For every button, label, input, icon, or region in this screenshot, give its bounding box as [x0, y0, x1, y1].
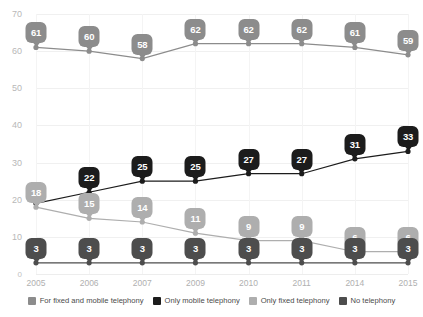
- data-label-value: 62: [297, 24, 307, 35]
- data-label-value: 18: [31, 187, 41, 198]
- data-label-value: 9: [299, 221, 304, 232]
- data-label-value: 61: [350, 27, 360, 38]
- data-label-badge: 3: [344, 238, 365, 259]
- data-label-badge: 27: [238, 149, 259, 170]
- data-label-value: 61: [31, 27, 41, 38]
- data-label-badge: 58: [132, 34, 153, 55]
- data-label-value: 33: [403, 131, 413, 142]
- data-label-badge: 25: [185, 156, 206, 177]
- data-label-badge: 3: [79, 238, 100, 259]
- line-chart: 010203040506070 200520062007200920102011…: [0, 0, 423, 317]
- data-label-badge: 27: [291, 149, 312, 170]
- data-label-value: 14: [137, 202, 147, 213]
- data-label-value: 3: [87, 243, 92, 254]
- data-label-value: 11: [191, 213, 201, 224]
- legend-swatch-icon: [339, 297, 347, 305]
- data-label-badge: 22: [79, 167, 100, 188]
- data-label-value: 25: [190, 161, 200, 172]
- data-label-badge: 31: [344, 134, 365, 155]
- data-label-badge: 3: [398, 238, 419, 259]
- data-label-value: 62: [190, 24, 200, 35]
- data-label-badge: 14: [132, 197, 153, 218]
- data-label-value: 22: [84, 172, 94, 183]
- data-label-badge: 11: [185, 208, 206, 229]
- data-label-badge: 3: [238, 238, 259, 259]
- data-label-badge: 33: [398, 126, 419, 147]
- legend-item[interactable]: Only fixed telephony: [249, 296, 330, 305]
- data-label-value: 3: [405, 243, 410, 254]
- legend-swatch-icon: [28, 297, 36, 305]
- legend-label: Only mobile telephony: [165, 296, 240, 305]
- data-label-badge: 61: [26, 22, 47, 43]
- data-label-value: 3: [193, 243, 198, 254]
- data-label-badge: 18: [26, 182, 47, 203]
- data-label-value: 25: [137, 161, 147, 172]
- data-label-badge: 25: [132, 156, 153, 177]
- data-label-value: 60: [84, 31, 94, 42]
- legend-item[interactable]: Only mobile telephony: [153, 296, 240, 305]
- data-label-value: 58: [137, 39, 147, 50]
- data-label-value: 15: [84, 198, 94, 209]
- legend-swatch-icon: [153, 297, 161, 305]
- data-label-badge: 60: [79, 26, 100, 47]
- data-label-badge: 3: [132, 238, 153, 259]
- data-label-badge: 62: [185, 19, 206, 40]
- legend-item[interactable]: For fixed and mobile telephony: [28, 296, 144, 305]
- data-label-value: 59: [403, 35, 413, 46]
- data-label-value: 31: [350, 139, 360, 150]
- data-label-badge: 3: [185, 238, 206, 259]
- data-label-value: 3: [246, 243, 251, 254]
- data-label-value: 27: [243, 154, 253, 165]
- data-label-value: 3: [140, 243, 145, 254]
- legend-swatch-icon: [249, 297, 257, 305]
- legend-label: Only fixed telephony: [261, 296, 330, 305]
- data-label-badge: 3: [26, 238, 47, 259]
- chart-legend: For fixed and mobile telephonyOnly mobil…: [0, 296, 423, 305]
- data-label-badge: 3: [291, 238, 312, 259]
- data-label-badge: 9: [291, 216, 312, 237]
- legend-item[interactable]: No telephony: [339, 296, 396, 305]
- data-label-value: 3: [299, 243, 304, 254]
- data-label-value: 3: [33, 243, 38, 254]
- legend-label: No telephony: [351, 296, 396, 305]
- data-label-value: 62: [243, 24, 253, 35]
- legend-label: For fixed and mobile telephony: [40, 296, 144, 305]
- data-label-value: 3: [352, 243, 357, 254]
- data-label-badge: 59: [398, 30, 419, 51]
- data-label-badge: 9: [238, 216, 259, 237]
- data-label-badge: 61: [344, 22, 365, 43]
- data-label-badge: 15: [79, 193, 100, 214]
- data-label-value: 27: [297, 154, 307, 165]
- data-label-badge: 62: [291, 19, 312, 40]
- series-lines: [0, 0, 423, 317]
- data-label-value: 9: [246, 221, 251, 232]
- data-label-badge: 62: [238, 19, 259, 40]
